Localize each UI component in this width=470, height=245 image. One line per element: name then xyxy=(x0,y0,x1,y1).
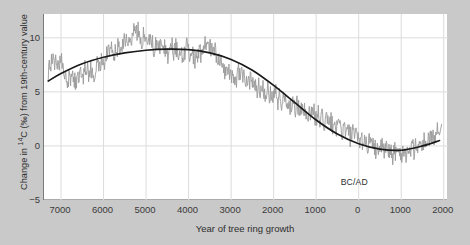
y-axis-label-superscript: 14 xyxy=(17,138,24,146)
plot-svg xyxy=(44,14,448,200)
data-series xyxy=(48,22,441,165)
gridlines xyxy=(44,14,448,200)
x-axis-ticks: 7000600050004000300020001000010002000 xyxy=(43,204,447,218)
record-line xyxy=(48,22,441,165)
y-axis-label: Change in 14C (‰) from 19th-century valu… xyxy=(17,7,29,197)
chart-figure: 1050−5 700060005000400030002000100001000… xyxy=(0,0,470,245)
bc-ad-annotation: BC/AD xyxy=(341,177,368,187)
x-axis-label: Year of tree ring growth xyxy=(43,223,447,234)
trend-curve xyxy=(48,49,439,150)
y-axis-label-prefix: Change in xyxy=(19,145,29,189)
y-axis-label-suffix: C (‰) from 19th-century value xyxy=(19,14,29,138)
x-tick-label: 2000 xyxy=(413,204,470,215)
plot-area xyxy=(43,14,447,200)
